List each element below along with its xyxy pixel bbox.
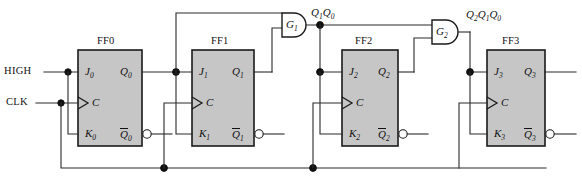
- ff1-title: FF1: [211, 36, 229, 47]
- q1-to-g1-wire: [272, 28, 282, 72]
- g1-gate-label: G1: [286, 19, 298, 33]
- clk-to-ff1-wire: [164, 103, 192, 168]
- ff1-q-pin-label: Q1: [232, 66, 244, 80]
- ff3-qbar-pin-label: Q3: [524, 128, 536, 143]
- ff2-title: FF2: [355, 36, 373, 47]
- ff3-c-pin-label: C: [501, 97, 508, 108]
- ff1-j-pin-label: J1: [199, 66, 208, 80]
- ff0-title: FF0: [97, 36, 115, 47]
- synchronous-counter-diagram: HIGH CLK FF0 FF1 FF2 FF3 J0 C K0 Q0 Q0 J…: [0, 0, 582, 185]
- ff0-k-pin-label: K0: [85, 128, 96, 142]
- ff1-qbar-pin-label: Q1: [232, 128, 244, 143]
- ff3-title: FF3: [502, 36, 520, 47]
- ff1-qbar-bubble: [255, 130, 263, 138]
- ff0-qbar-pin-label: Q0: [120, 128, 132, 143]
- g2-output-signal-label: Q2Q1Q0: [466, 9, 501, 23]
- high-input-label: HIGH: [4, 66, 31, 77]
- ff0-j-pin-label: J0: [85, 66, 94, 80]
- ff3-k-pin-label: K3: [494, 128, 505, 142]
- g2-to-j3-wire: [470, 32, 487, 72]
- clk-input-label: CLK: [6, 97, 28, 108]
- clk-to-ff2-wire: [313, 103, 342, 168]
- ff2-qbar-bubble: [399, 130, 407, 138]
- ff0-q-pin-label: Q0: [120, 66, 132, 80]
- ff1-k-pin-label: K1: [199, 128, 210, 142]
- ff1-c-pin-label: C: [206, 97, 213, 108]
- g1-to-j2-wire: [320, 25, 342, 72]
- g1-output-signal-label: Q1Q0: [311, 7, 334, 21]
- ff2-qbar-pin-label: Q2: [378, 128, 390, 143]
- clk-to-ff3-wire: [459, 103, 487, 168]
- ff3-j-pin-label: J3: [494, 66, 503, 80]
- ff2-c-pin-label: C: [356, 97, 363, 108]
- ff0-c-pin-label: C: [92, 97, 99, 108]
- ff3-qbar-bubble: [546, 130, 554, 138]
- ff2-k-pin-label: K2: [349, 128, 360, 142]
- g2-gate-label: G2: [436, 26, 448, 40]
- q2-to-g2-wire: [414, 38, 432, 72]
- ff2-j-pin-label: J2: [349, 66, 358, 80]
- ff0-qbar-bubble: [143, 130, 151, 138]
- ff3-q-pin-label: Q3: [524, 66, 536, 80]
- ff2-q-pin-label: Q2: [378, 66, 390, 80]
